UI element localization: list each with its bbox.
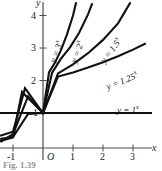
y-axis-name: y: [36, 0, 40, 8]
curve-label-1-base: y = 1: [117, 105, 136, 115]
x-axis-tick-label-3: 3: [130, 152, 135, 162]
figure-caption: Fig. 1.39: [3, 160, 36, 171]
curve-3-pow-x: [1, 3, 76, 141]
y-axis-tick-label-3: 3: [31, 43, 36, 53]
y-axis-tick-label-2: 2: [31, 76, 36, 86]
curve-1p5-pow-x: [1, 3, 130, 141]
origin-label: O: [47, 152, 54, 162]
y-axis-tick-label-4: 4: [31, 11, 36, 21]
figure-exponential-family: 4 3 2 1 -1 1 2 3 O x y y = 3x y = 2x y =…: [0, 0, 162, 171]
x-axis-tick-label-2: 2: [100, 152, 105, 162]
y-axis-tick-label-1: 1: [33, 108, 38, 118]
x-axis-tick-label-1: 1: [70, 152, 75, 162]
curve-label-1-exponent: x: [136, 103, 139, 110]
curve-label-1-pow-x: y = 1x: [117, 104, 139, 115]
plot-canvas: [0, 0, 162, 171]
x-axis-name: x: [152, 143, 156, 153]
